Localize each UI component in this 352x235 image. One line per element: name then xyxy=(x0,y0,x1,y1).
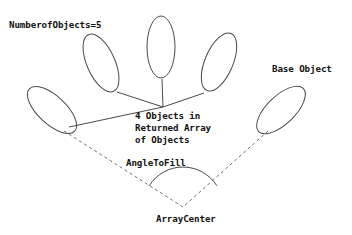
angle-arc-group xyxy=(149,167,217,186)
connector-object-3 xyxy=(162,79,163,107)
angle-to-fill-label: AngleToFill xyxy=(126,157,186,169)
object-ellipse-3 xyxy=(147,16,175,78)
returned-array-line-1: 4 Objects in xyxy=(135,110,200,121)
object-ellipse-1 xyxy=(20,79,84,142)
array-center-label: ArrayCenter xyxy=(156,213,216,225)
angle-to-fill-arc xyxy=(149,167,217,186)
returned-array-line-3: of Objects xyxy=(135,134,189,145)
returned-array-label: 4 Objects inReturned Arrayof Objects xyxy=(135,110,211,145)
base-object-label: Base Object xyxy=(272,63,332,75)
connector-object-4 xyxy=(163,93,204,107)
number-of-objects-label: NumberofObjects=5 xyxy=(9,19,101,31)
returned-array-line-2: Returned Array xyxy=(135,122,211,133)
diagram-canvas: NumberofObjects=5 Base Object 4 Objects … xyxy=(0,0,352,235)
object-ellipse-2 xyxy=(76,29,127,97)
connector-object-2 xyxy=(117,92,163,107)
object-ellipse-4 xyxy=(194,28,244,96)
object-ellipse-5-base-object xyxy=(249,78,313,141)
